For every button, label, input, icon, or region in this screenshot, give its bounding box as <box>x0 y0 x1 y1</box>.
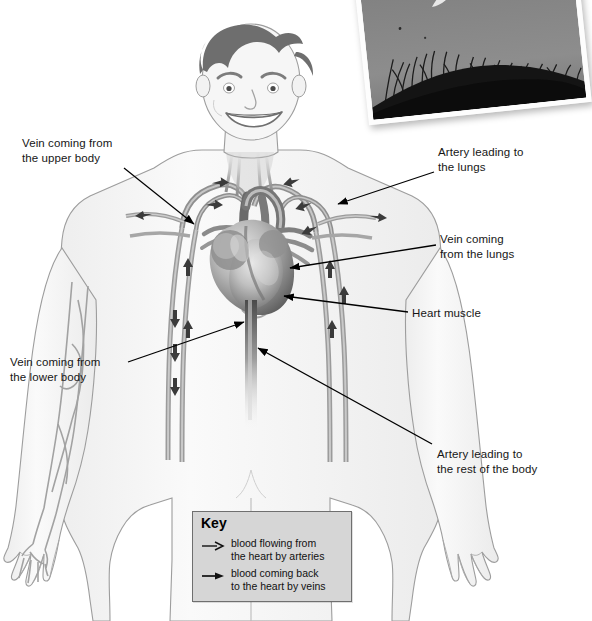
solid-arrow-icon <box>201 571 225 581</box>
descending-aorta <box>245 300 257 430</box>
key-title: Key <box>201 515 227 531</box>
label-artery-lungs: Artery leading to the lungs <box>438 145 523 175</box>
label-heart-muscle: Heart muscle <box>412 306 481 321</box>
key-entry-veins-label: blood coming back to the heart by veins <box>231 567 356 593</box>
label-vein-lower-body: Vein coming from the lower body <box>10 355 100 385</box>
label-artery-rest-body: Artery leading to the rest of the body <box>437 447 537 477</box>
label-vein-upper-body: Vein coming from the upper body <box>22 136 112 166</box>
key-box: Key blood flowing from the heart by arte… <box>192 511 352 602</box>
key-entry-arteries-label: blood flowing from the heart by arteries <box>231 537 356 563</box>
label-vein-lungs: Vein coming from the lungs <box>440 232 514 262</box>
open-arrow-icon <box>201 541 225 551</box>
